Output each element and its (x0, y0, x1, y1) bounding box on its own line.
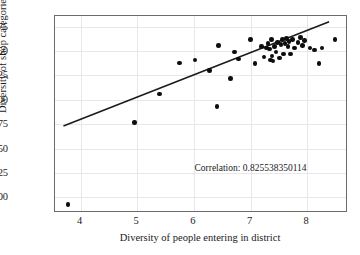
data-point (132, 120, 137, 125)
data-point (312, 48, 317, 53)
data-point (262, 55, 267, 60)
data-point (248, 37, 253, 42)
data-point (277, 56, 282, 61)
data-point (216, 43, 221, 48)
data-point (259, 44, 264, 49)
data-point (177, 61, 182, 66)
x-axis-label: Diversity of people entering in district (120, 232, 281, 243)
data-point (286, 44, 291, 49)
data-point (290, 37, 295, 42)
x-tick-label: 8 (304, 215, 309, 226)
y-tick-label: 2.75 (0, 118, 8, 129)
y-tick-label: 3.00 (0, 93, 8, 104)
data-point (269, 37, 274, 42)
y-tick-label: 2.00 (0, 191, 8, 202)
y-tick-label: 2.50 (0, 142, 8, 153)
data-point (207, 68, 212, 73)
data-point (215, 104, 220, 109)
data-point (228, 76, 233, 81)
plot-area: Correlation: 0.825538350114 (54, 15, 347, 212)
data-point (232, 50, 237, 55)
data-point (270, 54, 275, 59)
correlation-annotation: Correlation: 0.825538350114 (194, 163, 306, 173)
data-point (271, 59, 276, 64)
y-tick-label: 2.25 (0, 167, 8, 178)
data-points (55, 16, 346, 211)
data-point (300, 43, 305, 48)
y-tick-label: 3.25 (0, 69, 8, 80)
y-tick-label: 3.75 (0, 20, 8, 31)
data-point (193, 58, 198, 63)
data-point (292, 46, 297, 51)
data-point (274, 50, 279, 55)
x-tick-label: 7 (247, 215, 252, 226)
x-tick-label: 4 (77, 215, 82, 226)
x-tick-label: 6 (190, 215, 195, 226)
data-point (267, 47, 272, 52)
data-point (66, 202, 71, 207)
data-point (253, 61, 258, 66)
data-point (317, 61, 322, 66)
data-point (281, 52, 286, 57)
data-point (288, 52, 293, 57)
x-tick-label: 5 (134, 215, 139, 226)
y-tick-label: 3.50 (0, 45, 8, 56)
data-point (333, 37, 338, 42)
data-point (157, 92, 162, 97)
data-point (320, 46, 325, 51)
data-point (302, 38, 307, 43)
data-point (236, 57, 241, 62)
scatter-plot-figure: Diversity of shop categories Diversity o… (0, 0, 360, 255)
